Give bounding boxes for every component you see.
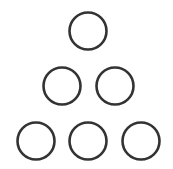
circle-row2-2 [97,68,134,105]
circles-group [18,13,160,160]
circle-row3-1 [18,123,55,160]
circle-row3-3 [123,123,160,160]
circle-row1-1 [70,13,107,50]
circle-row3-2 [70,123,107,160]
circle-row2-1 [44,68,81,105]
circle-triangle-diagram [0,0,173,169]
